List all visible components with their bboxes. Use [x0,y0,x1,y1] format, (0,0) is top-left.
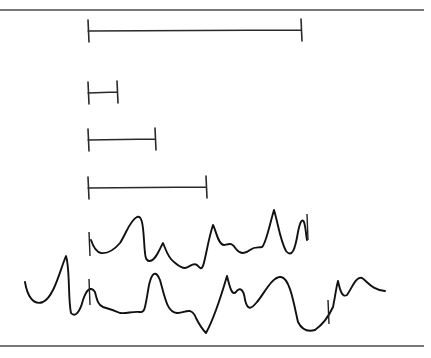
waveform-figure-canvas [0,0,431,358]
lower-onset-tick [89,279,90,305]
lower-offset-tick [328,300,329,324]
scale-bar [88,176,207,199]
scale-bars-group [88,19,302,199]
event-markers-group [89,214,329,324]
scale-bar [88,19,302,42]
upper-onset-tick [89,232,90,256]
upper-trace [91,210,307,268]
figure-panel [0,0,431,358]
scale-bar [88,81,118,104]
scale-bar [88,128,156,151]
lower-trace [25,256,385,333]
upper-end-tick [307,214,308,240]
waveforms-group [25,210,385,333]
